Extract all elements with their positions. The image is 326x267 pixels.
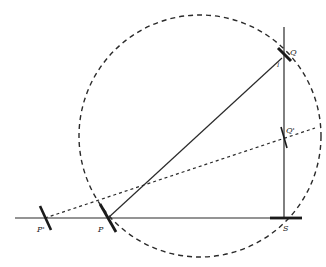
label-i: I bbox=[276, 61, 280, 68]
segment-pq bbox=[108, 58, 282, 218]
label-p: P bbox=[97, 225, 104, 234]
label-p-prime: P' bbox=[36, 225, 45, 234]
label-q-prime: Q' bbox=[286, 126, 295, 135]
dashed-circle bbox=[79, 15, 321, 257]
label-s: S bbox=[283, 224, 289, 233]
label-q: Q bbox=[290, 48, 297, 57]
construction-diagram: P' P S Q Q' I bbox=[0, 0, 326, 267]
